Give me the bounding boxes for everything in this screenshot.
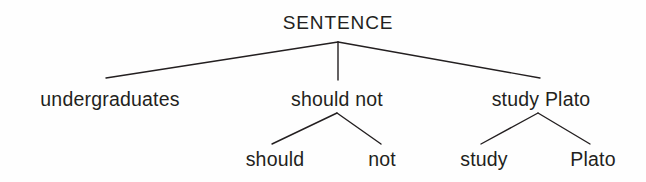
tree-leaf-study: study [460,150,508,170]
tree-leaf-not: not [368,150,396,170]
tree-leaf-should: should [246,150,305,170]
tree-node-should-not: should not [291,90,383,110]
tree-leaf-plato: Plato [570,150,615,170]
tree-node-study-plato: study Plato [492,90,591,110]
edge-negation-to-should [272,113,337,144]
edge-negation-to-not [337,113,381,144]
edge-predicate-to-plato [538,113,590,144]
tree-node-sentence: SENTENCE [283,13,394,32]
edge-root-to-subject [106,42,338,78]
edge-predicate-to-study [481,113,538,144]
syntax-tree-figure: SENTENCE undergraduates should not study… [0,0,646,182]
edge-root-to-predicate [338,42,540,78]
tree-node-undergraduates: undergraduates [40,90,179,110]
